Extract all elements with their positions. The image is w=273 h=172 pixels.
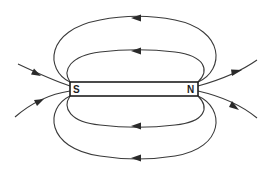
field-line-top-outer xyxy=(54,16,216,82)
field-line-right-upper xyxy=(198,60,257,86)
field-line-left-upper xyxy=(18,64,70,86)
arrow-left-icon xyxy=(131,48,141,55)
field-line-bottom-inner xyxy=(67,96,204,127)
field-line-top-inner xyxy=(67,50,204,82)
magnet-field-diagram: S N xyxy=(0,0,273,172)
arrow-left-icon xyxy=(131,155,141,162)
arrow-out-of-n-icon xyxy=(231,70,242,77)
arrow-left-icon xyxy=(131,123,141,130)
south-pole-label: S xyxy=(73,84,80,95)
bar-magnet xyxy=(70,82,198,96)
field-line-right-lower xyxy=(198,91,257,118)
arrow-left-icon xyxy=(131,15,141,22)
arrow-into-s-icon xyxy=(31,69,41,77)
field-line-left-lower xyxy=(15,91,70,117)
north-pole-label: N xyxy=(187,84,194,95)
arrow-into-s-icon xyxy=(34,99,44,106)
